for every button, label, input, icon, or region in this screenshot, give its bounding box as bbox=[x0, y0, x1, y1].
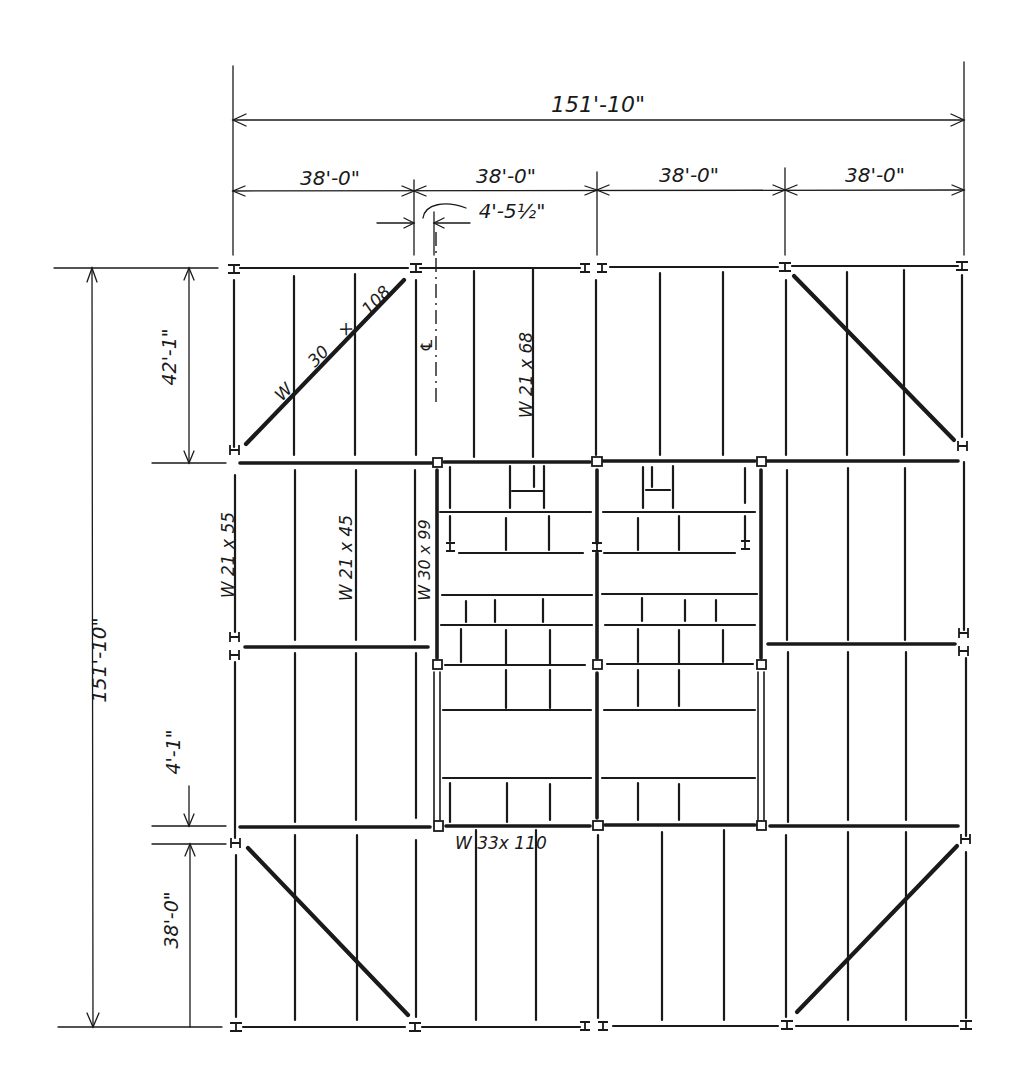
top-dimension-lines bbox=[233, 62, 964, 255]
gap-dimension-label: 4'-1" bbox=[162, 730, 184, 775]
overall-width-label: 151'-10" bbox=[551, 92, 645, 117]
left-dimension-lines bbox=[54, 268, 226, 1027]
bay-width-label-4: 38'-0" bbox=[845, 163, 905, 187]
beam-label-left: W 21 x 45 bbox=[336, 515, 356, 601]
framing-plan-drawing: 151'-10" 38'-0" 38'-0" 38'-0" 38'-0" 4'-… bbox=[0, 0, 1023, 1088]
bay-width-label-3: 38'-0" bbox=[659, 163, 719, 187]
girder-label-left: W 21 x 55 bbox=[218, 512, 238, 598]
opening-girders bbox=[434, 470, 764, 820]
beam-label-top-center: W 21 x 68 bbox=[516, 332, 536, 419]
offset-dimension-label: 4'-5½" bbox=[479, 199, 546, 223]
top-bay-height-label: 42'-1" bbox=[158, 328, 180, 385]
girder-label-opening: W 30 x 99 bbox=[415, 519, 434, 600]
bay-width-label-2: 38'-0" bbox=[476, 164, 536, 188]
girder-label-bottom: W 33x 110 bbox=[455, 833, 547, 853]
diagonal-label-weight: 108 bbox=[357, 281, 394, 318]
bottom-bay-height-label: 38'-0" bbox=[160, 891, 182, 948]
bay-width-label-1: 38'-0" bbox=[300, 166, 360, 190]
overall-height-label: 151'-10" bbox=[87, 617, 111, 703]
diagonal-label-depth: 30 bbox=[303, 341, 332, 370]
center-line-symbol: ℄ bbox=[417, 338, 436, 352]
